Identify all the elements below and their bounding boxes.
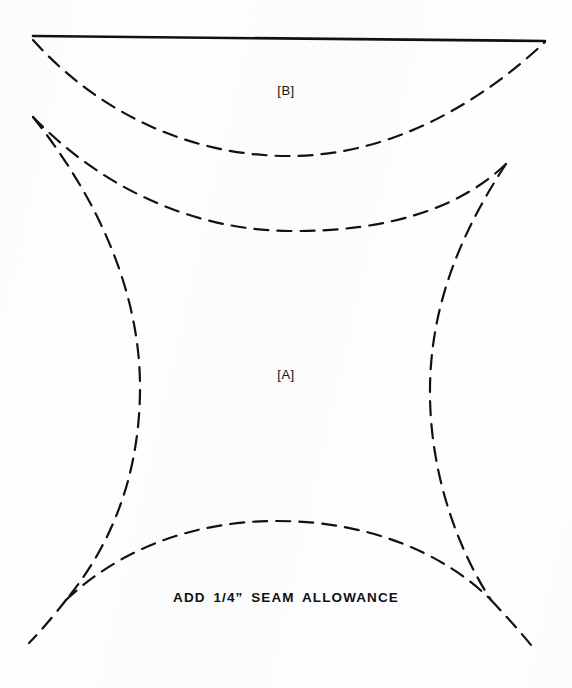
piece-b-inner-curve xyxy=(33,117,506,231)
piece-b-label: [B] xyxy=(0,83,572,98)
corner-tail-bottom-left xyxy=(29,600,66,643)
seam-allowance-note: ADD 1/4” SEAM ALLOWANCE xyxy=(0,590,572,605)
piece-a-label: [A] xyxy=(0,367,572,382)
top-solid-edge xyxy=(33,36,545,41)
piece-a-right-side xyxy=(430,164,506,600)
piece-b-lower-curve xyxy=(33,40,545,156)
pattern-page: [B] [A] ADD 1/4” SEAM ALLOWANCE xyxy=(0,0,572,688)
corner-tail-bottom-right xyxy=(491,600,531,645)
pattern-shape-layer xyxy=(29,36,545,645)
pattern-drawing xyxy=(0,0,572,688)
piece-a-left-side xyxy=(33,117,140,600)
piece-a-bottom-curve xyxy=(66,521,491,600)
